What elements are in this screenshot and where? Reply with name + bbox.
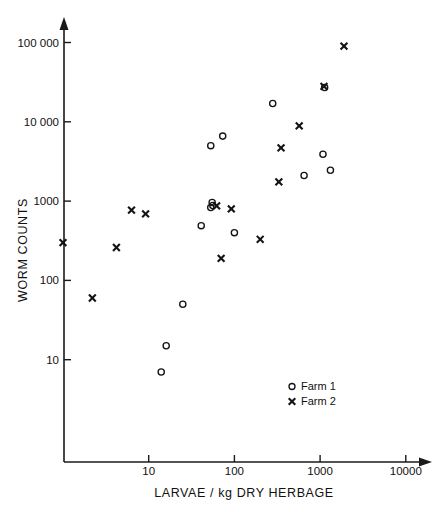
x-axis-title: LARVAE / kg DRY HERBAGE xyxy=(154,486,334,500)
y-tick-label: 10 000 xyxy=(24,116,59,128)
x-tick-label: 100 xyxy=(225,465,244,477)
x-tick-label: 10 xyxy=(142,465,155,477)
legend-label: Farm 2 xyxy=(301,395,336,407)
y-tick-label: 1000 xyxy=(33,195,59,207)
x-tick-label: 10000 xyxy=(390,465,422,477)
y-tick-label: 100 xyxy=(40,274,59,286)
y-tick-label: 100 000 xyxy=(17,37,59,49)
y-tick-label: 10 xyxy=(46,354,59,366)
scatter-plot-figure: 10100100010000 10100100010 000100 000 LA… xyxy=(0,0,435,512)
x-tick-label: 1000 xyxy=(307,465,333,477)
y-axis-title: WORM COUNTS xyxy=(16,198,30,302)
legend-label: Farm 1 xyxy=(301,380,336,392)
